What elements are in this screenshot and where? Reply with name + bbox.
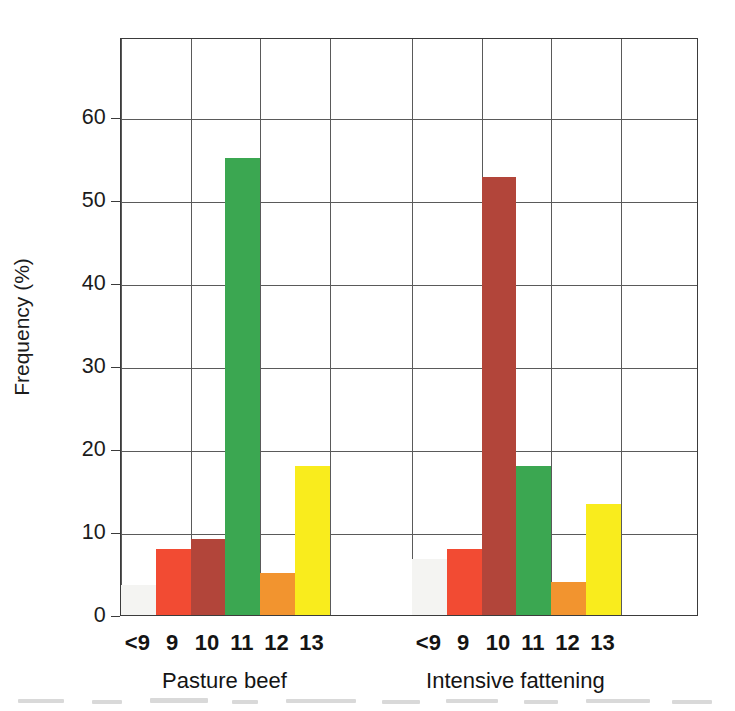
y-tick-label-30: 30 <box>58 354 106 379</box>
x-tick-label-intensive-13: 13 <box>579 630 626 656</box>
x-tick-label-pasture-13: 13 <box>288 630 335 656</box>
bar-intensive-10 <box>482 177 517 615</box>
y-tick-mark-0 <box>111 616 120 617</box>
y-tick-mark-60 <box>111 118 120 119</box>
y-tick-mark-40 <box>111 284 120 285</box>
bar-pasture-<9 <box>121 585 156 615</box>
bar-pasture-11 <box>225 158 260 615</box>
group-label-pasture: Pasture beef <box>80 668 369 694</box>
y-tick-mark-50 <box>111 201 120 202</box>
y-tick-label-50: 50 <box>58 188 106 213</box>
plot-area <box>120 38 698 616</box>
y-tick-label-0: 0 <box>58 603 106 628</box>
y-tick-label-60: 60 <box>58 105 106 130</box>
y-axis-title: Frequency (%) <box>10 258 34 396</box>
bar-intensive-11 <box>516 466 551 615</box>
bar-intensive-9 <box>447 549 482 615</box>
y-tick-mark-10 <box>111 533 120 534</box>
bars-layer <box>121 39 697 615</box>
y-tick-label-40: 40 <box>58 271 106 296</box>
y-tick-mark-30 <box>111 367 120 368</box>
bar-pasture-10 <box>191 539 226 615</box>
y-tick-label-10: 10 <box>58 520 106 545</box>
chart-figure: Frequency (%) 0102030405060 <9910111213<… <box>0 0 735 711</box>
scan-edge-strip <box>0 693 735 711</box>
bar-pasture-9 <box>156 549 191 615</box>
bar-intensive-13 <box>586 504 621 615</box>
y-tick-label-20: 20 <box>58 437 106 462</box>
y-tick-mark-20 <box>111 450 120 451</box>
bar-pasture-12 <box>260 573 295 615</box>
bar-intensive-<9 <box>412 559 447 615</box>
bar-pasture-13 <box>295 466 330 615</box>
bar-intensive-12 <box>551 582 586 615</box>
group-label-intensive: Intensive fattening <box>371 668 660 694</box>
